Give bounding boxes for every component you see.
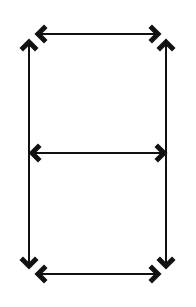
arrow-bottom	[38, 266, 158, 282]
arrow-top	[38, 26, 158, 42]
arrow-middle	[32, 145, 164, 161]
arrow-rectangle-diagram	[0, 0, 196, 307]
arrows-group	[21, 26, 174, 282]
